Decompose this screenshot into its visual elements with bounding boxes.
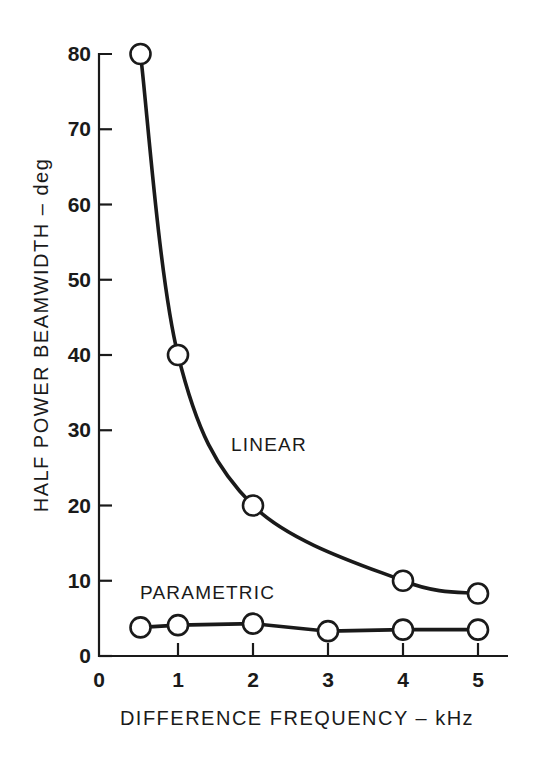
- data-point-marker: [168, 345, 188, 365]
- y-tick-label: 20: [68, 494, 91, 517]
- y-tick-label: 80: [68, 42, 91, 65]
- data-point-marker: [243, 496, 263, 516]
- series-line: [141, 624, 479, 632]
- y-tick-label: 40: [68, 343, 91, 366]
- y-tick-label: 30: [68, 418, 91, 441]
- y-tick-label: 10: [68, 569, 91, 592]
- data-point-marker: [393, 620, 413, 640]
- axes-frame: [99, 54, 508, 656]
- x-tick-label: 0: [93, 668, 105, 691]
- series-line: [141, 54, 479, 594]
- beamwidth-chart: 01020304050607080 012345 LINEAR PARAMETR…: [0, 0, 538, 763]
- x-axis-ticks: 012345: [93, 643, 484, 691]
- data-point-marker: [131, 44, 151, 64]
- series-linear: [131, 44, 489, 604]
- x-tick-label: 3: [322, 668, 334, 691]
- series-layer: [131, 44, 489, 641]
- data-point-marker: [468, 584, 488, 604]
- series-label-parametric: PARAMETRIC: [140, 582, 275, 603]
- series-parametric: [131, 614, 489, 642]
- x-tick-label: 1: [172, 668, 184, 691]
- y-tick-label: 70: [68, 117, 91, 140]
- y-tick-label: 50: [68, 268, 91, 291]
- y-tick-label: 60: [68, 193, 91, 216]
- series-label-linear: LINEAR: [231, 434, 307, 455]
- data-point-marker: [318, 621, 338, 641]
- data-point-marker: [468, 620, 488, 640]
- data-point-marker: [168, 615, 188, 635]
- data-point-marker: [243, 614, 263, 634]
- x-axis-title: DIFFERENCE FREQUENCY – kHz: [120, 707, 474, 729]
- y-axis-ticks: 01020304050607080: [68, 42, 112, 667]
- data-point-marker: [131, 617, 151, 637]
- x-tick-label: 4: [397, 668, 409, 691]
- x-tick-label: 5: [472, 668, 484, 691]
- x-tick-label: 2: [247, 668, 259, 691]
- data-point-marker: [393, 571, 413, 591]
- y-axis-title: HALF POWER BEAMWIDTH – deg: [30, 158, 52, 513]
- y-tick-label: 0: [79, 644, 91, 667]
